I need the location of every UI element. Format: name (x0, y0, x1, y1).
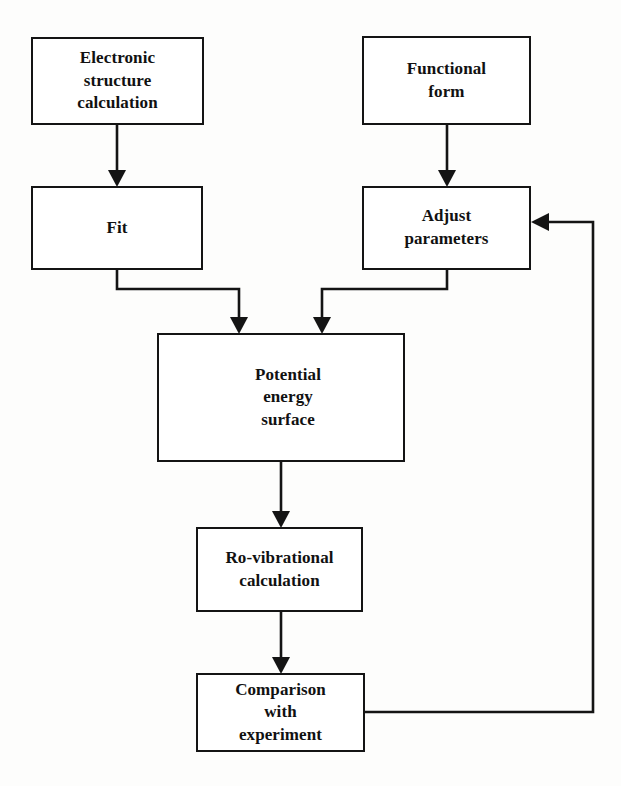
flowchart-canvas: Electronic structure calculation Functio… (0, 0, 621, 786)
node-label-fit: Fit (106, 217, 127, 240)
node-potential-energy-surface[interactable]: Potential energy surface (157, 333, 405, 462)
node-ro-vibrational-calculation[interactable]: Ro-vibrational calculation (196, 527, 363, 612)
node-label-adjust-parameters: Adjust parameters (404, 205, 488, 250)
edge-ro-vibrational-to-comparison (272, 612, 290, 674)
edge-adjust-parameters-to-potential-energy-surface (313, 270, 447, 334)
edge-electronic-structure-to-fit (108, 125, 126, 187)
node-comparison-with-experiment[interactable]: Comparison with experiment (196, 673, 365, 752)
edge-potential-energy-surface-to-ro-vibrational (272, 462, 290, 528)
node-fit[interactable]: Fit (31, 186, 203, 270)
node-label-potential-energy-surface: Potential energy surface (255, 364, 321, 432)
edge-comparison-feedback-to-adjust-parameters (365, 213, 593, 712)
node-label-electronic-structure-calculation: Electronic structure calculation (77, 47, 157, 115)
node-adjust-parameters[interactable]: Adjust parameters (362, 186, 531, 270)
node-electronic-structure-calculation[interactable]: Electronic structure calculation (31, 37, 204, 125)
edge-functional-form-to-adjust-parameters (438, 125, 456, 187)
edge-fit-to-potential-energy-surface (117, 270, 248, 334)
node-functional-form[interactable]: Functional form (362, 36, 531, 125)
node-label-functional-form: Functional form (407, 58, 486, 103)
node-label-ro-vibrational-calculation: Ro-vibrational calculation (225, 547, 333, 592)
node-label-comparison-with-experiment: Comparison with experiment (235, 679, 326, 747)
